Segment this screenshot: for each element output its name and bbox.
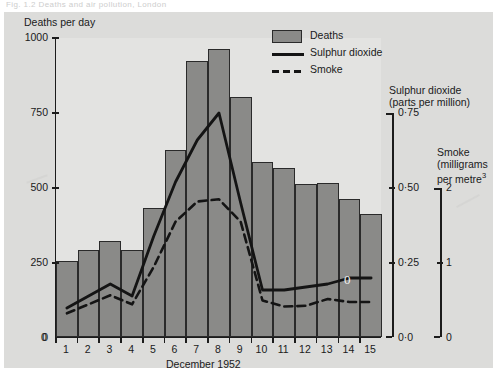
- x-tick-label-8: 8: [206, 343, 230, 355]
- x-tick-label-10: 10: [249, 343, 273, 355]
- smoke-tick-label-0: 2: [446, 181, 452, 193]
- x-tick-mark-13: [316, 338, 318, 343]
- left-tick-label-1000: 1000: [10, 31, 48, 43]
- smoke-line: [67, 199, 371, 313]
- figure-caption: Fig. 1.2 Deaths and air pollution, Londo…: [6, 0, 336, 11]
- x-tick-mark-7: [185, 338, 187, 343]
- smoke-axis-title-line1: Smoke: [437, 146, 470, 159]
- x-tick-mark-10: [251, 338, 253, 343]
- plot-area: [55, 38, 381, 338]
- x-tick-label-4: 4: [119, 343, 143, 355]
- handwritten-pen-mark: 0: [344, 272, 351, 288]
- legend-swatch-icon: [272, 30, 302, 43]
- x-tick-label-3: 3: [97, 343, 121, 355]
- x-tick-mark-3: [98, 338, 100, 343]
- x-tick-mark-15: [359, 338, 361, 343]
- x-tick-mark-14: [338, 338, 340, 343]
- chart-screenshot: Fig. 1.2 Deaths and air pollution, Londo…: [0, 0, 497, 380]
- x-tick-mark-11: [272, 338, 274, 343]
- x-tick-label-15: 15: [358, 343, 382, 355]
- x-tick-label-14: 14: [336, 343, 360, 355]
- smoke-axis-title-text: per metre: [437, 173, 482, 185]
- left-tick-label-250: 250: [10, 256, 48, 268]
- legend-label-sulphur-dioxide: Sulphur dioxide: [310, 46, 382, 58]
- smoke-axis-title-line3: per metre3: [437, 170, 486, 185]
- line-series-overlay: [56, 38, 382, 338]
- legend-label-deaths: Deaths: [310, 29, 343, 41]
- x-tick-label-5: 5: [141, 343, 165, 355]
- x-axis-title: December 1952: [166, 358, 241, 370]
- sulphur-axis-title-line1: Sulphur dioxide: [389, 84, 461, 97]
- x-tick-mark-6: [164, 338, 166, 343]
- x-tick-label-11: 11: [271, 343, 295, 355]
- left-tick-label-750: 750: [10, 106, 48, 118]
- sulphur-axis-top-cap: [386, 113, 392, 115]
- left-tick-mark-750: [52, 112, 59, 114]
- legend-dashed-line-icon: [272, 70, 304, 73]
- sulphur-tick-label-1: 0·50: [398, 181, 419, 193]
- x-tick-label-7: 7: [184, 343, 208, 355]
- sulphur-axis-line: [392, 113, 394, 337]
- left-axis-title: Deaths per day: [24, 16, 95, 28]
- smoke-axis-title-superscript: 3: [482, 171, 486, 180]
- x-tick-mark-12: [294, 338, 296, 343]
- x-tick-label-9: 9: [228, 343, 252, 355]
- sulphur-axis-bottom-cap: [386, 336, 392, 338]
- legend-label-smoke: Smoke: [310, 63, 343, 75]
- smoke-tick-label-1: 1: [446, 256, 452, 268]
- x-axis-origin-label: 0: [41, 331, 47, 343]
- smoke-axis-bottom-cap: [434, 336, 440, 338]
- x-tick-mark-9: [229, 338, 231, 343]
- x-tick-label-2: 2: [76, 343, 100, 355]
- x-tick-label-6: 6: [163, 343, 187, 355]
- sulphur-tick-mark-2: [389, 262, 395, 264]
- left-tick-mark-1000: [52, 37, 59, 39]
- x-tick-label-13: 13: [315, 343, 339, 355]
- smoke-axis-title-line2: (milligrams: [437, 158, 488, 171]
- smoke-axis-top-cap: [434, 188, 440, 190]
- legend-solid-line-icon: [272, 53, 304, 56]
- x-tick-label-12: 12: [293, 343, 317, 355]
- sulphur-tick-label-0: 0·75: [398, 106, 419, 118]
- sulphur-tick-label-3: 0·0: [398, 331, 413, 343]
- x-tick-mark-2: [77, 338, 79, 343]
- x-tick-mark-4: [120, 338, 122, 343]
- smoke-tick-mark-1: [437, 262, 443, 264]
- left-tick-mark-500: [52, 187, 59, 189]
- sulphur-dioxide-line: [67, 113, 371, 308]
- sulphur-tick-mark-1: [389, 187, 395, 189]
- sulphur-tick-label-2: 0·25: [398, 256, 419, 268]
- x-tick-mark-1: [55, 338, 57, 343]
- x-tick-mark-8: [207, 338, 209, 343]
- x-tick-label-1: 1: [54, 343, 78, 355]
- x-tick-mark-5: [142, 338, 144, 343]
- left-tick-mark-250: [52, 262, 59, 264]
- smoke-tick-label-2: 0: [446, 331, 452, 343]
